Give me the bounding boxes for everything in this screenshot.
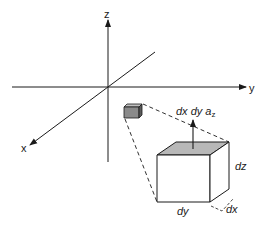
dz-label: dz bbox=[235, 160, 247, 172]
differential-volume-diagram: z y x dx dy az dz dy dx bbox=[0, 0, 262, 230]
dy-label: dy bbox=[177, 205, 190, 217]
dx-label: dx bbox=[226, 203, 238, 215]
y-axis-label: y bbox=[249, 82, 255, 94]
diagram-canvas: z y x dx dy az dz dy dx bbox=[0, 0, 262, 230]
small-cube bbox=[124, 104, 142, 118]
front-face bbox=[157, 155, 210, 202]
x-axis-label: x bbox=[21, 142, 27, 154]
large-cube bbox=[157, 142, 233, 211]
z-axis-label: z bbox=[104, 8, 110, 20]
flux-label: dx dy az bbox=[176, 105, 215, 119]
x-axis bbox=[30, 52, 155, 145]
